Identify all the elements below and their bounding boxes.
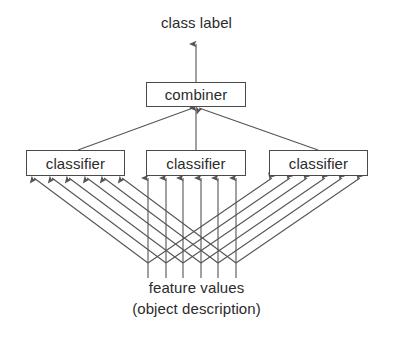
class-label-text: class label: [0, 14, 393, 31]
node-classifier-left-label: classifier: [46, 155, 105, 172]
node-classifier-right-label: classifier: [289, 155, 348, 172]
edges-features-to-classifier-left: [34, 178, 236, 263]
feature-values-label: feature values: [0, 279, 393, 296]
node-combiner: combiner: [146, 82, 246, 107]
object-description-label: (object description): [0, 300, 393, 317]
edge-classifier-left-to-combiner: [78, 108, 193, 150]
diagram-canvas: class label combiner classifier classifi…: [0, 0, 393, 348]
node-classifier-left: classifier: [26, 150, 125, 176]
node-classifier-middle-label: classifier: [166, 155, 225, 172]
node-classifier-middle: classifier: [146, 150, 246, 176]
edge-classifier-right-to-combiner: [199, 108, 318, 150]
node-classifier-right: classifier: [269, 150, 368, 176]
feature-trunk-lines: [148, 263, 236, 278]
node-combiner-label: combiner: [165, 86, 228, 103]
